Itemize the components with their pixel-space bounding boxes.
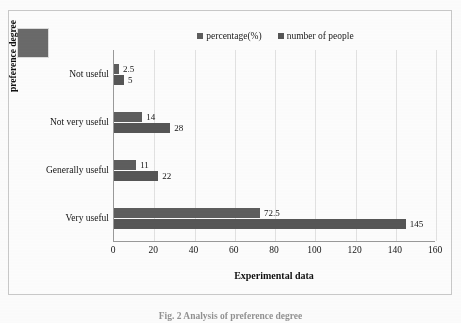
bar-value-label: 72.5 xyxy=(264,208,280,218)
scanned-page: percentage(%) number of people preferenc… xyxy=(0,0,461,323)
x-axis-tick-label: 20 xyxy=(149,245,159,255)
y-axis-title: preference degree xyxy=(8,20,18,92)
bar-value-label: 11 xyxy=(140,160,149,170)
bar-value-label: 28 xyxy=(174,123,183,133)
category-row: Very useful72.5145 xyxy=(114,194,435,242)
y-axis-category-label: Very useful xyxy=(65,213,109,223)
bar-percentage[interactable] xyxy=(114,112,142,122)
x-axis-tick-label: 60 xyxy=(229,245,239,255)
x-axis-tick-label: 160 xyxy=(428,245,442,255)
gridline xyxy=(436,50,437,241)
bar-number-of-people[interactable] xyxy=(114,171,158,181)
x-axis-tick-label: 0 xyxy=(111,245,116,255)
plot-area: Not useful2.55Not very useful1428General… xyxy=(113,50,435,242)
x-axis-tick-label: 40 xyxy=(189,245,199,255)
y-axis-category-label: Not useful xyxy=(69,69,109,79)
x-axis-tick-labels: 020406080100120140160 xyxy=(113,242,435,258)
y-axis-category-label: Not very useful xyxy=(50,117,109,127)
x-axis-tick-label: 140 xyxy=(388,245,402,255)
legend-item-number-of-people[interactable]: number of people xyxy=(278,31,354,41)
bar-value-label: 14 xyxy=(146,112,155,122)
figure-caption: Fig. 2 Analysis of preference degree xyxy=(0,309,461,323)
x-axis-title: Experimental data xyxy=(113,270,435,281)
x-axis-tick-label: 120 xyxy=(347,245,361,255)
legend-label-number-of-people: number of people xyxy=(287,31,354,41)
legend-item-percentage[interactable]: percentage(%) xyxy=(197,31,261,41)
legend-label-percentage: percentage(%) xyxy=(206,31,261,41)
bar-value-label: 145 xyxy=(410,219,424,229)
bar-number-of-people[interactable] xyxy=(114,219,406,229)
category-row: Not very useful1428 xyxy=(114,98,435,146)
bar-percentage[interactable] xyxy=(114,160,136,170)
legend-swatch-percentage xyxy=(197,33,203,39)
category-row: Generally useful1122 xyxy=(114,146,435,194)
y-axis-category-label: Generally useful xyxy=(46,165,109,175)
x-axis-tick-label: 80 xyxy=(269,245,279,255)
category-row: Not useful2.55 xyxy=(114,50,435,98)
bar-value-label: 22 xyxy=(162,171,171,181)
bar-percentage[interactable] xyxy=(114,64,119,74)
x-axis-tick-label: 100 xyxy=(307,245,321,255)
bar-percentage[interactable] xyxy=(114,208,260,218)
bar-value-label: 2.5 xyxy=(123,64,134,74)
bar-number-of-people[interactable] xyxy=(114,75,124,85)
plot-wrapper: Not useful2.55Not very useful1428General… xyxy=(113,50,435,242)
figure-caption-text: Fig. 2 Analysis of preference degree xyxy=(159,311,303,321)
bar-number-of-people[interactable] xyxy=(114,123,170,133)
gray-square-artifact xyxy=(17,28,49,58)
legend-swatch-number-of-people xyxy=(278,33,284,39)
chart-legend: percentage(%) number of people xyxy=(113,28,438,44)
bar-value-label: 5 xyxy=(128,75,133,85)
